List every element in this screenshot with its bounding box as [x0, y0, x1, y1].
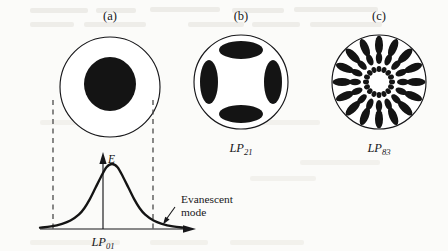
mode-patterns-figure: (a) (b) LP21 (c) LP83 E LP01 Evanescent …: [0, 0, 448, 251]
mode-lobe-c-outer-ring-4: [407, 78, 426, 86]
panel-label-b: (b): [234, 9, 249, 23]
mode-lobe-c-middle-ring-12: [349, 79, 361, 85]
mode-lobe-b-top: [219, 41, 263, 59]
mode-lobe-a-0: [84, 57, 136, 111]
mode-lobe-c-outer-ring-0: [375, 36, 383, 55]
figure-container: (a) (b) LP21 (c) LP83 E LP01 Evanescent …: [0, 0, 448, 251]
mode-lobe-b-right: [264, 60, 282, 104]
mode-lobe-c-inner-ring-8: [377, 92, 382, 98]
evanescent-label-line2: mode: [181, 206, 206, 218]
field-symbol-label: E: [107, 153, 115, 165]
mode-lobe-c-inner-ring-12: [363, 80, 369, 85]
evanescent-label-line1: Evanescent: [181, 193, 234, 205]
mode-lobe-c-outer-ring-12: [333, 78, 352, 86]
mode-lobe-c-outer-ring-8: [375, 110, 383, 129]
mode-lobe-b-bottom: [219, 105, 263, 123]
mode-lobe-c-middle-ring-8: [376, 100, 382, 112]
mode-lobe-c-inner-ring-4: [389, 80, 395, 85]
panel-label-c: (c): [372, 9, 386, 23]
mode-lobe-b-left: [200, 60, 218, 104]
mode-lobe-c-middle-ring-4: [397, 79, 409, 85]
mode-lobe-c-inner-ring-0: [377, 66, 382, 72]
panel-label-a: (a): [103, 9, 117, 23]
mode-lobe-c-middle-ring-0: [376, 52, 382, 64]
